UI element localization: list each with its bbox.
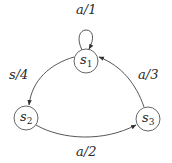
transition-label-s1-s2: s/4 xyxy=(9,67,28,82)
state-diagram: s1 s2 s3 a/1 s/4 a/3 a/2 xyxy=(0,0,172,163)
state-s1: s1 xyxy=(74,49,98,73)
state-s2: s2 xyxy=(14,106,38,130)
transition-label-s1-s1: a/1 xyxy=(76,2,96,17)
transition-label-s2-s3: a/2 xyxy=(76,144,96,159)
state-s3: s3 xyxy=(136,107,160,131)
transition-s1-s1 xyxy=(79,30,93,50)
transition-label-s3-s1: a/3 xyxy=(138,67,158,82)
transition-s1-s2 xyxy=(29,57,74,105)
transition-s3-s1 xyxy=(99,57,144,107)
transition-s2-s3 xyxy=(36,125,136,137)
